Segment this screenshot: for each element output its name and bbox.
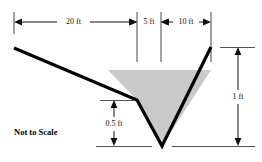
dimension-20ft-label: 20 ft — [66, 17, 82, 26]
dimension-05ft-label: 0.5 ft — [106, 119, 124, 128]
dimension-1ft-label: 1 ft — [233, 92, 245, 101]
dimension-10ft-label: 10 ft — [179, 17, 195, 26]
not-to-scale-note: Not to Scale — [14, 127, 58, 137]
dimension-5ft-label: 5 ft — [144, 17, 156, 26]
channel-cross-section-figure: 20 ft 5 ft 10 ft 0.5 ft 1 ft Not to Sc — [0, 0, 262, 162]
